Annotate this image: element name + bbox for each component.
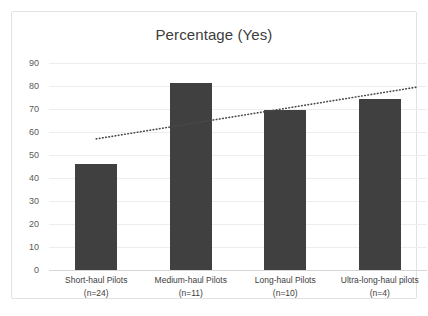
- category-sample-size: (n=10): [238, 287, 333, 300]
- y-axis-tick-label: 50: [12, 150, 39, 160]
- y-axis-tick-label: 10: [12, 242, 39, 252]
- y-axis-tick-label: 0: [12, 265, 39, 275]
- gridline: [49, 86, 427, 87]
- x-axis-category-label: Long-haul Pilots(n=10): [238, 274, 333, 299]
- category-sample-size: (n=11): [144, 287, 239, 300]
- category-name: Ultra-long-haul pilots: [341, 275, 419, 285]
- category-name: Long-haul Pilots: [255, 275, 316, 285]
- y-axis-tick-label: 60: [12, 127, 39, 137]
- y-axis-tick-label: 40: [12, 173, 39, 183]
- category-name: Short-haul Pilots: [65, 275, 127, 285]
- category-sample-size: (n=4): [333, 287, 428, 300]
- y-axis-tick-label: 70: [12, 104, 39, 114]
- x-axis-category-label: Short-haul Pilots(n=24): [49, 274, 144, 299]
- plot-area: [49, 63, 427, 270]
- bar[interactable]: [264, 110, 306, 270]
- y-axis-tick-label: 20: [12, 219, 39, 229]
- chart-title: Percentage (Yes): [12, 26, 416, 43]
- y-axis-tick-label: 30: [12, 196, 39, 206]
- bar[interactable]: [75, 164, 117, 270]
- chart-container: Percentage (Yes) 9080706050403020100 Sho…: [11, 11, 417, 299]
- x-axis-category-label: Medium-haul Pilots(n=11): [144, 274, 239, 299]
- y-axis-tick-label: 90: [12, 58, 39, 68]
- bar[interactable]: [170, 83, 212, 270]
- y-axis-tick-label: 80: [12, 81, 39, 91]
- category-name: Medium-haul Pilots: [155, 275, 227, 285]
- category-sample-size: (n=24): [49, 287, 144, 300]
- x-axis-category-label: Ultra-long-haul pilots(n=4): [333, 274, 428, 299]
- bar[interactable]: [359, 99, 401, 270]
- gridline: [49, 63, 427, 64]
- gridline: [49, 270, 427, 271]
